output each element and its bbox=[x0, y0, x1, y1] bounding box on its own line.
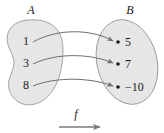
function-label: f bbox=[74, 107, 79, 121]
domain-element-3: 3 bbox=[23, 56, 29, 70]
diagram-canvas: A B 1 3 8 5 7 −10 f bbox=[0, 0, 164, 133]
codomain-dot-neg10 bbox=[116, 85, 120, 89]
set-b-label: B bbox=[126, 3, 134, 17]
function-mapping-figure: A B 1 3 8 5 7 −10 f bbox=[0, 0, 164, 133]
codomain-element-neg10: −10 bbox=[125, 80, 144, 94]
codomain-dot-7 bbox=[116, 62, 120, 66]
codomain-element-7: 7 bbox=[125, 57, 131, 71]
codomain-element-5: 5 bbox=[125, 35, 131, 49]
set-a-blob bbox=[7, 20, 63, 105]
domain-element-8: 8 bbox=[23, 78, 29, 92]
domain-element-1: 1 bbox=[23, 34, 29, 48]
codomain-dot-5 bbox=[116, 40, 120, 44]
set-a-label: A bbox=[26, 3, 35, 17]
